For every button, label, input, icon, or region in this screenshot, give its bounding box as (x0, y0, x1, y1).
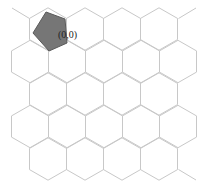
hex-cell[interactable] (12, 105, 49, 147)
hex-edge-partial (179, 8, 197, 19)
hex-edge-partial (179, 170, 197, 181)
hex-grid-board (0, 0, 208, 192)
hex-edge-partial (12, 8, 30, 19)
hex-cell[interactable] (12, 40, 49, 82)
origin-coordinate-label: (0,0) (58, 30, 77, 40)
